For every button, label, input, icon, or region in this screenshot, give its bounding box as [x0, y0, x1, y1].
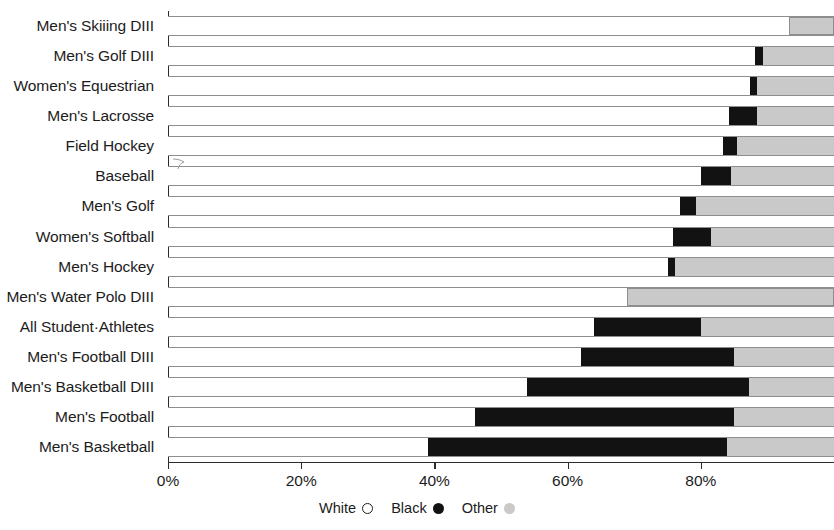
- bar-segment-black: [527, 378, 749, 396]
- bar-segment-white: [168, 228, 673, 246]
- bar-segment-other: [731, 167, 834, 185]
- bar-segment-other: [757, 107, 834, 125]
- bar-segment-other: [749, 378, 834, 396]
- bar-segment-other: [789, 17, 834, 35]
- x-axis-tick-label: 20%: [286, 473, 317, 489]
- bar-segment-white: [168, 77, 750, 95]
- bar-segment-other: [734, 348, 834, 366]
- table-row: [168, 16, 834, 36]
- bar-segment-other: [734, 408, 834, 426]
- bar-segment-white: [168, 318, 594, 336]
- y-axis-category-label: Men's Basketball: [0, 439, 154, 455]
- bar-segment-white: [168, 167, 701, 185]
- x-axis-tick-label: 40%: [419, 473, 450, 489]
- stacked-bar-chart: Men's Skiiing DIIIMen's Golf DIIIWomen's…: [0, 0, 834, 530]
- legend-item: Black: [391, 500, 443, 516]
- y-axis-category-label: Men's Golf: [0, 198, 154, 214]
- white-circle-outline-icon: [362, 503, 373, 514]
- bar-segment-other: [696, 197, 834, 215]
- x-axis-tick: [168, 462, 169, 469]
- y-axis-category-labels: Men's Skiiing DIIIMen's Golf DIIIWomen's…: [0, 11, 162, 462]
- y-axis-category-label: Field Hockey: [0, 138, 154, 154]
- legend-item-label: Black: [391, 500, 426, 516]
- y-axis-category-label: All Student·Athletes: [0, 319, 154, 335]
- bar-segment-other: [701, 318, 834, 336]
- table-row: [168, 106, 834, 126]
- bar-segment-black: [673, 228, 711, 246]
- x-axis-line: [168, 462, 834, 463]
- bar-segment-black: [475, 408, 734, 426]
- bar-segment-black: [755, 47, 764, 65]
- y-axis-category-label: Women's Softball: [0, 229, 154, 245]
- y-axis-category-label: Baseball: [0, 168, 154, 184]
- bar-segment-white: [168, 258, 668, 276]
- table-row: [168, 257, 834, 277]
- y-axis-category-label: Women's Equestrian: [0, 78, 154, 94]
- bar-segment-white: [168, 288, 627, 306]
- chart-legend: WhiteBlackOther: [0, 500, 834, 516]
- bar-segment-black: [750, 77, 757, 95]
- bar-segment-white: [168, 197, 680, 215]
- y-axis-category-label: Men's Lacrosse: [0, 108, 154, 124]
- bar-segment-other: [711, 228, 834, 246]
- bar-segment-other: [763, 47, 834, 65]
- gray-filled-circle-icon: [504, 503, 515, 514]
- bar-segment-other: [737, 137, 834, 155]
- legend-item-label: White: [319, 500, 356, 516]
- bar-segment-black: [428, 438, 726, 456]
- y-axis-category-label: Men's Golf DIII: [0, 48, 154, 64]
- table-row: [168, 46, 834, 66]
- bar-segment-black: [594, 318, 701, 336]
- y-axis-category-label: Men's Basketball DIII: [0, 379, 154, 395]
- table-row: [168, 407, 834, 427]
- bar-segment-white: [168, 438, 428, 456]
- bar-segment-black: [729, 107, 757, 125]
- y-axis-category-label: Men's Football: [0, 409, 154, 425]
- bar-segment-white: [168, 107, 729, 125]
- legend-item: Other: [462, 500, 515, 516]
- y-axis-category-label: Men's Skiiing DIII: [0, 18, 154, 34]
- bar-segment-white: [168, 408, 475, 426]
- table-row: [168, 347, 834, 367]
- bar-segment-other: [757, 77, 834, 95]
- bar-segment-black: [680, 197, 696, 215]
- bar-segment-black: [668, 258, 675, 276]
- table-row: [168, 136, 834, 156]
- x-axis-tick: [301, 462, 302, 469]
- bar-segment-other: [727, 438, 834, 456]
- x-axis-tick-label: 0%: [157, 473, 179, 489]
- bar-segment-other: [675, 258, 834, 276]
- bar-segment-white: [168, 47, 755, 65]
- x-axis-tick: [434, 462, 435, 469]
- y-axis-category-label: Men's Hockey: [0, 259, 154, 275]
- bar-segment-other: [627, 288, 834, 306]
- table-row: [168, 166, 834, 186]
- x-axis-tick: [701, 462, 702, 469]
- bar-segment-black: [581, 348, 734, 366]
- legend-item-label: Other: [462, 500, 498, 516]
- table-row: [168, 377, 834, 397]
- bar-segment-white: [168, 137, 723, 155]
- y-axis-category-label: Men's Water Polo DIII: [0, 289, 154, 305]
- bar-segment-white: [168, 348, 581, 366]
- plot-area: 0%20%40%60%80%: [168, 11, 834, 462]
- table-row: [168, 287, 834, 307]
- black-filled-circle-icon: [433, 503, 444, 514]
- bar-segment-black: [723, 137, 737, 155]
- table-row: [168, 317, 834, 337]
- y-axis-category-label: Men's Football DIII: [0, 349, 154, 365]
- x-axis-tick-label: 60%: [552, 473, 583, 489]
- x-axis-tick-label: 80%: [685, 473, 716, 489]
- x-axis-tick: [568, 462, 569, 469]
- bar-segment-white: [168, 17, 789, 35]
- table-row: [168, 437, 834, 457]
- table-row: [168, 227, 834, 247]
- bar-segment-white: [168, 378, 527, 396]
- bar-segment-black: [701, 167, 730, 185]
- table-row: [168, 76, 834, 96]
- table-row: [168, 196, 834, 216]
- legend-item: White: [319, 500, 373, 516]
